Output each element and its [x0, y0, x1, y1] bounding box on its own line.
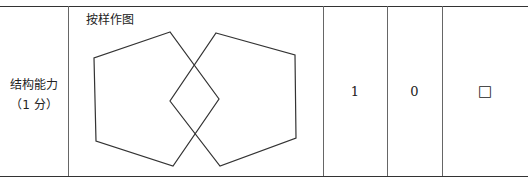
- left-pentagon: [94, 32, 219, 166]
- score-zero: 0: [387, 84, 442, 99]
- score-max: 1: [323, 84, 387, 99]
- right-pentagon: [170, 33, 296, 166]
- checkbox[interactable]: □: [442, 82, 528, 100]
